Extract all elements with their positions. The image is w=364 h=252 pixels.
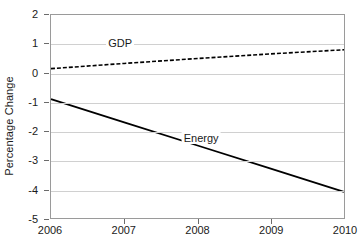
y-tick-mark: [44, 73, 49, 74]
x-tick-mark: [198, 219, 199, 224]
x-tick-label: 2009: [259, 224, 283, 236]
x-axis-tick-labels: 20062007200820092010: [50, 224, 345, 240]
x-tick-mark: [124, 219, 125, 224]
gridline: [51, 103, 344, 104]
series-label-energy: Energy: [182, 132, 221, 144]
y-tick-label: 2: [32, 9, 38, 20]
x-tick-label: 2006: [38, 224, 62, 236]
y-tick-label: 0: [32, 67, 38, 78]
plot-area: [50, 14, 345, 219]
y-tick-mark: [44, 102, 49, 103]
y-axis-tick-labels: 210-1-2-3-4-5: [0, 14, 44, 219]
y-tick-label: -2: [28, 126, 38, 137]
y-tick-label: 1: [32, 38, 38, 49]
x-tick-label: 2007: [112, 224, 136, 236]
y-tick-mark: [44, 14, 49, 15]
x-tick-label: 2008: [185, 224, 209, 236]
x-tick-label: 2010: [333, 224, 357, 236]
y-tick-mark: [44, 43, 49, 44]
series-label-gdp: GDP: [106, 37, 134, 49]
y-tick-mark: [44, 219, 49, 220]
y-tick-label: -4: [28, 184, 38, 195]
y-tick-label: -1: [28, 96, 38, 107]
series-layer: [51, 15, 344, 218]
gridline: [51, 161, 344, 162]
series-line-energy: [51, 99, 344, 192]
gridline: [51, 74, 344, 75]
y-tick-mark: [44, 160, 49, 161]
series-line-gdp: [51, 50, 344, 69]
line-chart: Percentage Change 210-1-2-3-4-5 20062007…: [0, 0, 364, 252]
gridline: [51, 44, 344, 45]
gridline: [51, 191, 344, 192]
x-tick-mark: [271, 219, 272, 224]
y-tick-mark: [44, 131, 49, 132]
y-tick-mark: [44, 190, 49, 191]
y-tick-label: -5: [28, 214, 38, 225]
y-tick-label: -3: [28, 155, 38, 166]
